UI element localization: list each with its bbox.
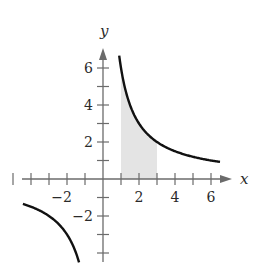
x-tick-label: 6: [207, 189, 216, 205]
curve-negative-branch: [23, 204, 79, 263]
y-tick-label: 6: [84, 60, 93, 76]
hyperbola-chart: −2246 642−2 x y: [0, 0, 256, 277]
y-axis: [99, 48, 107, 262]
y-axis-label: y: [99, 22, 109, 40]
x-tick-label: −2: [51, 189, 72, 205]
x-tick-label: 2: [135, 189, 144, 205]
y-axis-arrow-icon: [99, 48, 107, 60]
y-tick-labels: 642−2: [72, 60, 93, 224]
x-axis-arrow-icon: [220, 175, 232, 183]
x-tick-labels: −2246: [51, 189, 215, 205]
x-axis-label: x: [240, 170, 249, 188]
y-tick-label: 4: [84, 97, 93, 113]
x-tick-label: 4: [171, 189, 180, 205]
y-tick-label: 2: [84, 134, 93, 150]
y-tick-label: −2: [72, 208, 93, 224]
